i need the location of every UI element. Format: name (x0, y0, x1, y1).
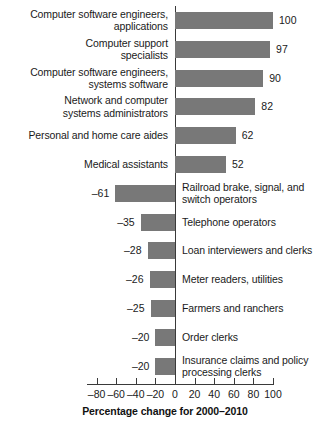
table-row: Personal and home care aides62 (0, 121, 330, 150)
x-axis-line (87, 384, 274, 385)
value-label: –26 (126, 271, 144, 288)
table-row: Computer software engineers, systems sof… (0, 64, 330, 93)
axis-tick (155, 378, 156, 385)
value-label: –61 (92, 185, 110, 202)
axis-tick (136, 378, 137, 385)
category-label: Order clerks (182, 331, 326, 343)
bar (150, 271, 175, 288)
category-label: Personal and home care aides (4, 129, 168, 141)
value-label: –20 (132, 358, 150, 375)
value-label: 90 (269, 70, 281, 87)
bar (175, 12, 273, 29)
value-label: 52 (232, 156, 244, 173)
category-label: Insurance claims and policy processing c… (182, 354, 326, 379)
category-label: Loan interviewers and clerks (182, 244, 326, 256)
axis-tick (97, 378, 98, 385)
bar (155, 358, 175, 375)
value-label: 62 (242, 127, 254, 144)
value-label: 100 (279, 12, 297, 29)
bar (175, 127, 236, 144)
table-row: Telephone operators–35 (0, 208, 330, 237)
category-label: Telephone operators (182, 216, 326, 228)
table-row: Insurance claims and policy processing c… (0, 352, 330, 381)
axis-tick-label: 100 (253, 388, 293, 401)
bar (151, 300, 176, 317)
axis-tick (234, 378, 235, 385)
percentage-change-bar-chart: Computer software engineers, application… (0, 0, 330, 428)
table-row: Order clerks–20 (0, 323, 330, 352)
bar (115, 185, 175, 202)
table-row: Computer software engineers, application… (0, 6, 330, 35)
category-label: Railroad brake, signal, and switch opera… (182, 181, 326, 206)
axis-tick (273, 378, 274, 385)
category-label: Medical assistants (4, 158, 168, 170)
value-label: –35 (117, 214, 135, 231)
value-label: –25 (127, 300, 145, 317)
bar (141, 214, 175, 231)
category-label: Meter readers, utilities (182, 273, 326, 285)
bar (148, 242, 175, 259)
plot-area: Computer software engineers, application… (0, 0, 330, 376)
category-label: Computer software engineers, application… (4, 8, 168, 33)
axis-tick (195, 378, 196, 385)
value-label: 82 (261, 98, 273, 115)
category-label: Farmers and ranchers (182, 302, 326, 314)
axis-tick (116, 378, 117, 385)
value-label: 97 (276, 41, 288, 58)
category-label: Network and computer systems administrat… (4, 94, 168, 119)
x-axis: –80–60–40–20020406080100 Percentage chan… (0, 378, 330, 428)
bar (155, 329, 175, 346)
table-row: Computer support specialists97 (0, 35, 330, 64)
table-row: Network and computer systems administrat… (0, 92, 330, 121)
table-row: Medical assistants52 (0, 150, 330, 179)
axis-tick (214, 378, 215, 385)
category-label: Computer support specialists (4, 37, 168, 62)
axis-tick (253, 378, 254, 385)
bar (175, 98, 255, 115)
category-label: Computer software engineers, systems sof… (4, 66, 168, 91)
value-label: –28 (124, 242, 142, 259)
bar (175, 156, 226, 173)
x-axis-title: Percentage change for 2000–2010 (0, 405, 330, 417)
table-row: Meter readers, utilities–26 (0, 265, 330, 294)
table-row: Farmers and ranchers–25 (0, 294, 330, 323)
axis-tick (175, 378, 176, 385)
table-row: Railroad brake, signal, and switch opera… (0, 179, 330, 208)
value-label: –20 (132, 329, 150, 346)
table-row: Loan interviewers and clerks–28 (0, 236, 330, 265)
bar (175, 41, 270, 58)
bar (175, 70, 263, 87)
